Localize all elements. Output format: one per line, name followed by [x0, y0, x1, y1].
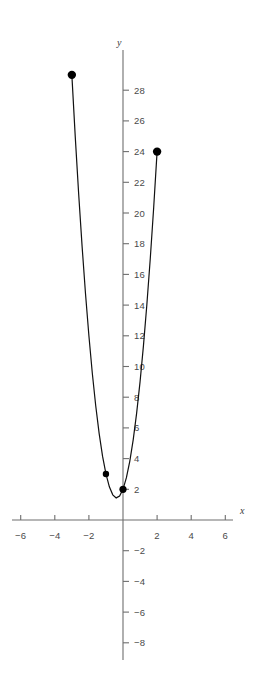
x-axis-label: x — [239, 505, 245, 516]
parabola-graph-figure: −6−4−2246 −8−6−4−22468101214161820222426… — [0, 0, 263, 685]
y-tick-label: 24 — [134, 146, 145, 157]
y-tick-label: 28 — [134, 85, 145, 96]
y-tick-label: −4 — [134, 576, 145, 587]
x-tick-label: 2 — [154, 530, 159, 541]
y-tick-label: 2 — [134, 484, 139, 495]
x-tick-label: 6 — [223, 530, 228, 541]
x-axis-ticks: −6−4−2246 — [15, 515, 228, 541]
y-tick-label: 4 — [134, 453, 139, 464]
y-tick-label: 26 — [134, 115, 145, 126]
parabola-curve — [72, 75, 157, 498]
data-point-point-left — [103, 471, 109, 477]
axis-lines — [12, 50, 233, 660]
x-tick-label: −6 — [15, 530, 26, 541]
x-tick-label: 4 — [188, 530, 193, 541]
y-tick-label: 10 — [134, 361, 145, 372]
data-point-vertex — [119, 486, 126, 493]
x-tick-label: −2 — [83, 530, 94, 541]
y-tick-label: −2 — [134, 545, 145, 556]
y-tick-label: 18 — [134, 238, 145, 249]
plot-canvas: −6−4−2246 −8−6−4−22468101214161820222426… — [0, 0, 263, 685]
data-point-right-endpoint — [153, 147, 161, 155]
y-tick-label: −6 — [134, 607, 145, 618]
y-axis-label: y — [116, 37, 122, 48]
y-tick-label: 14 — [134, 300, 145, 311]
x-tick-label: −4 — [49, 530, 60, 541]
curve-group — [72, 75, 157, 498]
y-tick-label: 22 — [134, 177, 145, 188]
y-tick-label: 12 — [134, 330, 145, 341]
data-point-left-endpoint — [68, 71, 76, 79]
y-tick-label: 16 — [134, 269, 145, 280]
y-tick-label: 20 — [134, 208, 145, 219]
data-points-group — [68, 71, 162, 493]
y-tick-label: −8 — [134, 637, 145, 648]
